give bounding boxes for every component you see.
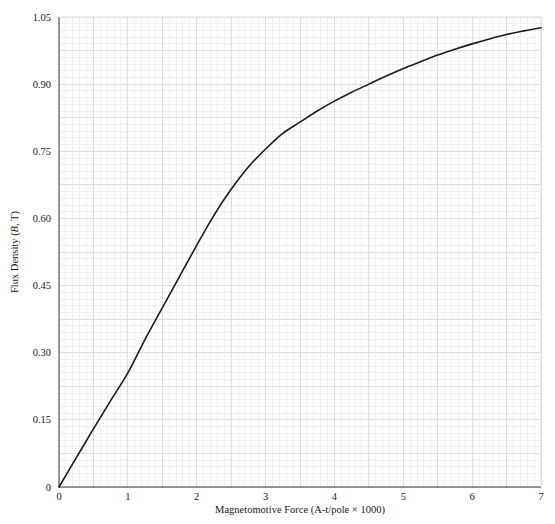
x-tick-label: 3 <box>263 491 268 502</box>
y-axis-title: Flux Density (B, T) <box>9 210 21 293</box>
y-tick-label: 0.45 <box>33 280 51 291</box>
y-axis-title-post: , T) <box>9 210 21 225</box>
y-tick-label: 0.90 <box>33 79 51 90</box>
x-tick-label: 1 <box>125 491 130 502</box>
y-tick-label: 0.15 <box>33 414 51 425</box>
x-tick-label: 7 <box>538 491 543 502</box>
y-tick-label: 0.60 <box>33 213 51 224</box>
magnetization-curve-figure: 01234567 00.150.300.450.600.750.901.05 M… <box>0 0 555 524</box>
y-tick-label: 0.75 <box>33 146 51 157</box>
x-axis-title: Magnetomotive Force (A-t/pole × 1000) <box>215 504 385 516</box>
x-tick-label: 0 <box>56 491 61 502</box>
chart-canvas: 01234567 00.150.300.450.600.750.901.05 M… <box>0 0 555 524</box>
x-tick-label: 5 <box>401 491 406 502</box>
y-tick-label: 1.05 <box>33 12 51 23</box>
x-tick-label: 6 <box>470 491 475 502</box>
y-axis-title-pre: Flux Density ( <box>9 232 21 293</box>
y-tick-label: 0.30 <box>33 347 51 358</box>
x-tick-label: 4 <box>332 491 338 502</box>
x-tick-label: 2 <box>194 491 199 502</box>
y-tick-label: 0 <box>46 482 51 493</box>
